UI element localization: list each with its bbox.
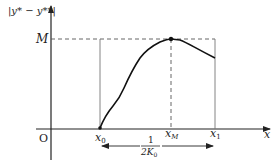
max-label: M: [35, 32, 49, 46]
error-curve: [100, 39, 215, 128]
max-point: [169, 37, 173, 41]
x-axis-label: x: [264, 128, 271, 141]
x0-label: x0: [95, 131, 106, 145]
diagram: |y* − y**| M O x0 xM x1 x 1 2K0: [0, 0, 276, 164]
interval-denominator: 2K0: [140, 147, 157, 158]
origin-label: O: [39, 132, 48, 145]
interval-numerator: 1: [148, 135, 154, 145]
x0-point: [98, 126, 102, 130]
y-axis-label: |y* − y**|: [8, 5, 56, 17]
